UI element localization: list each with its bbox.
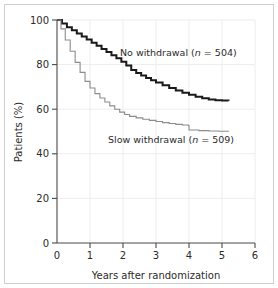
x-tick-label: 5 (219, 250, 225, 261)
y-axis-tick-labels: 020406080100 (30, 15, 49, 249)
x-tick-label: 3 (153, 250, 159, 261)
figure-container: 0123456 020406080100 No withdrawal (n = … (0, 0, 278, 288)
x-axis-tick-labels: 0123456 (54, 250, 258, 261)
x-tick-label: 6 (252, 250, 258, 261)
y-tick-label: 40 (36, 148, 49, 159)
no-withdrawal-label: No withdrawal (n = 504) (120, 47, 237, 58)
x-tick-label: 4 (186, 250, 192, 261)
y-tick-label: 20 (36, 193, 49, 204)
data-series-curves (57, 20, 229, 132)
y-tick-label: 80 (36, 59, 49, 70)
x-tick-label: 0 (54, 250, 60, 261)
y-tick-label: 0 (43, 238, 49, 249)
y-axis-ticks (52, 20, 57, 243)
series-annotations: No withdrawal (n = 504)Slow withdrawal (… (108, 47, 237, 145)
survival-chart: 0123456 020406080100 No withdrawal (n = … (0, 0, 278, 288)
series-line-no-withdrawal (57, 20, 229, 101)
x-tick-label: 2 (120, 250, 126, 261)
slow-withdrawal-label: Slow withdrawal (n = 509) (108, 134, 234, 145)
y-tick-label: 100 (30, 15, 49, 26)
y-axis-title: Patients (%) (13, 102, 24, 163)
x-axis-title: Years after randomization (91, 270, 221, 281)
y-tick-label: 60 (36, 104, 49, 115)
x-axis-ticks (90, 243, 255, 248)
x-tick-label: 1 (87, 250, 93, 261)
